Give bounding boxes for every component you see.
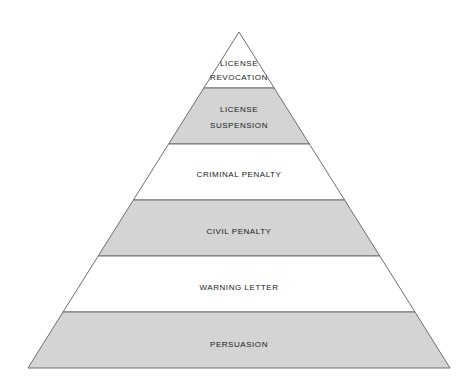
pyramid-tier-license-revocation[interactable]: LICENSE REVOCATION xyxy=(204,32,274,88)
pyramid-tier-persuasion[interactable]: PERSUASION xyxy=(28,312,450,368)
tier-label-license-revocation-line1: LICENSE xyxy=(220,59,258,68)
tier-shape-license-suspension xyxy=(169,88,310,144)
pyramid-tier-civil-penalty[interactable]: CIVIL PENALTY xyxy=(98,200,380,256)
pyramid-tier-warning-letter[interactable]: WARNING LETTER xyxy=(63,256,415,312)
tier-label-civil-penalty: CIVIL PENALTY xyxy=(207,227,272,236)
tier-label-criminal-penalty: CRIMINAL PENALTY xyxy=(197,170,282,179)
pyramid-svg-canvas: LICENSE REVOCATION LICENSE SUSPENSION CR… xyxy=(0,0,476,389)
pyramid-tier-criminal-penalty[interactable]: CRIMINAL PENALTY xyxy=(133,144,344,200)
pyramid-diagram: LICENSE REVOCATION LICENSE SUSPENSION CR… xyxy=(0,0,476,389)
tier-label-warning-letter: WARNING LETTER xyxy=(200,283,279,292)
tier-label-persuasion: PERSUASION xyxy=(210,340,268,349)
pyramid-tier-license-suspension[interactable]: LICENSE SUSPENSION xyxy=(169,88,310,144)
tier-label-license-revocation-line2: REVOCATION xyxy=(210,73,268,82)
tier-label-license-suspension-line1: LICENSE xyxy=(220,105,258,114)
tier-label-license-suspension-line2: SUSPENSION xyxy=(210,121,268,130)
